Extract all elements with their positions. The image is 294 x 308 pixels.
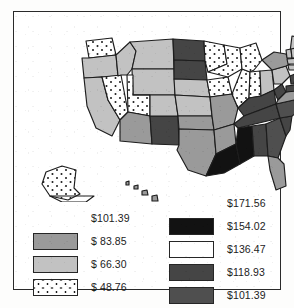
state-KS	[175, 95, 212, 116]
state-MS	[236, 126, 254, 164]
legend-item: $101.39	[33, 210, 151, 233]
state-MD	[286, 85, 294, 92]
legend-item: $ 48.76	[33, 279, 151, 302]
state-HI-3	[142, 190, 148, 195]
state-NJ	[290, 74, 294, 84]
legend-swatch-white	[169, 241, 214, 258]
state-SD	[174, 60, 207, 80]
state-AK	[42, 166, 80, 200]
us-map-svg	[28, 24, 294, 202]
legend-swatch-medium-gray	[33, 233, 78, 250]
legend-item: $101.39	[169, 287, 289, 308]
state-OK	[178, 116, 214, 130]
state-HI-1	[126, 181, 129, 185]
state-MT	[130, 39, 174, 69]
state-AZ	[120, 112, 152, 144]
legend-swatch-dark-gray-2	[169, 287, 214, 304]
state-MI	[240, 43, 262, 72]
figure-frame: $101.39 $ 83.85 $ 66.30 $ 48.76 $171.56	[13, 11, 281, 290]
state-OR	[82, 55, 118, 78]
legend-item: $ 83.85	[33, 233, 151, 256]
legend-label: $118.93	[227, 266, 265, 278]
state-NM	[150, 116, 179, 145]
legend-label: $154.02	[227, 220, 266, 232]
state-MA	[287, 58, 294, 64]
legend-label: $ 48.76	[91, 281, 127, 293]
legend-label: $101.39	[227, 289, 266, 301]
state-NH	[291, 48, 294, 58]
legend-right-column: $171.56 $154.02 $136.47 $118.93 $101.39	[169, 195, 289, 308]
state-ND	[173, 39, 205, 61]
legend-swatch-dark-gray	[169, 264, 214, 281]
legend-label: $136.47	[227, 243, 266, 255]
legend-item: $ 66.30	[33, 256, 151, 279]
legend-item: $118.93	[169, 264, 289, 287]
legend-label: $171.56	[227, 197, 266, 209]
legend-label: $ 83.85	[91, 235, 127, 247]
state-AL	[252, 124, 268, 156]
state-HI-4	[152, 195, 158, 201]
legend-item: $136.47	[169, 241, 289, 264]
state-WY	[132, 69, 175, 95]
state-NE	[174, 79, 210, 97]
legend-item: $154.02	[169, 218, 289, 241]
us-map	[28, 24, 294, 202]
legend-label: $101.39	[91, 212, 130, 224]
legend-swatch-black	[169, 218, 214, 235]
legend-item: $171.56	[169, 195, 289, 218]
legend-swatch-light-gray	[33, 256, 78, 273]
state-IN	[249, 71, 261, 98]
legend-left-column: $101.39 $ 83.85 $ 66.30 $ 48.76	[33, 210, 151, 302]
state-CT	[288, 65, 294, 70]
legend-label: $ 66.30	[91, 258, 127, 270]
state-FL	[268, 156, 286, 190]
state-HI-2	[134, 185, 138, 189]
legend-swatch-stipple-dots	[33, 279, 78, 296]
